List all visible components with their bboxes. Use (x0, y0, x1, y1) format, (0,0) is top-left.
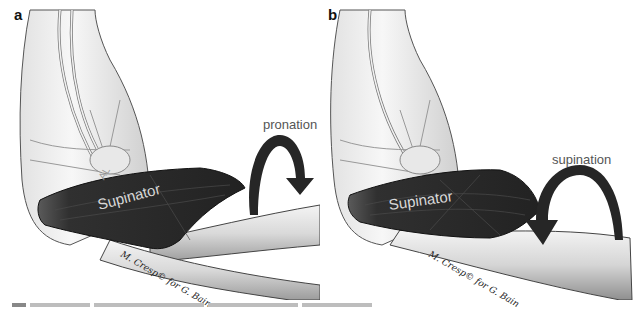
forearm-bones (390, 230, 632, 300)
panel-letter: a (14, 6, 22, 23)
caption-text-block (302, 303, 372, 307)
panel-b: b Supinator supination M. Cresp© for G. … (320, 0, 640, 300)
elbow-illustration-supination (320, 0, 640, 300)
pronation-label: pronation (263, 117, 317, 132)
panel-a: a AL Supinator pronation M. Cresp© for G… (0, 0, 320, 300)
caption-text-block (30, 303, 90, 307)
caption-fig-marker (12, 303, 26, 307)
figure-caption-truncated (12, 302, 372, 308)
elbow-illustration-pronation (0, 0, 320, 300)
panel-letter: b (328, 6, 337, 23)
pronation-arrow-icon (249, 135, 314, 215)
caption-text-block (94, 303, 204, 307)
caption-text-block (208, 303, 298, 307)
radial-head (400, 146, 440, 174)
supination-label: supination (552, 152, 611, 167)
